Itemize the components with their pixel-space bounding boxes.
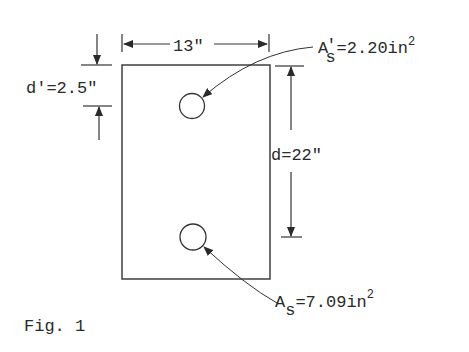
tension-steel-leader xyxy=(204,247,277,303)
beam-section xyxy=(122,65,270,279)
figure-caption: Fig. 1 xyxy=(24,317,85,336)
compression-steel-label: A's=2.20in2 xyxy=(318,35,415,67)
tension-steel-label: As=7.09in2 xyxy=(275,288,374,320)
effective-depth-label: d=22" xyxy=(271,146,322,165)
compression-depth-dimension: d'=2.5" xyxy=(26,34,112,140)
effective-depth-dimension: d=22" xyxy=(271,66,322,237)
compression-steel-leader xyxy=(203,47,313,97)
width-label: 13" xyxy=(173,37,204,56)
compression-rebar xyxy=(180,94,205,119)
tension-rebar xyxy=(180,224,206,250)
compression-depth-label: d'=2.5" xyxy=(26,79,97,98)
beam-section-diagram: 13" d'=2.5" d=22" A's=2.20in2 As=7.09in2… xyxy=(0,0,469,352)
width-dimension: 13" xyxy=(122,34,269,56)
